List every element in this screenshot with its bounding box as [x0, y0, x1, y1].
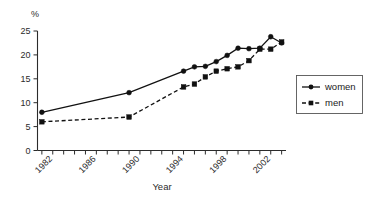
chart-container: % 0510152025 198219861990199419982002 Ye…: [0, 0, 366, 201]
y-tick-label-20: 20: [20, 50, 30, 60]
x-tick-label-1982: 1982: [33, 154, 54, 175]
data-point-men-2002: [268, 47, 273, 52]
data-point-women-1997: [214, 59, 219, 64]
chart-legend: womenmen: [297, 76, 363, 114]
data-point-men-2000: [247, 58, 252, 63]
data-point-women-1995: [192, 64, 197, 69]
data-point-women-2002: [268, 34, 273, 39]
y-tick-label-0: 0: [25, 146, 30, 156]
legend-label-women: women: [324, 81, 356, 92]
data-point-women-2001: [257, 46, 262, 51]
legend-marker-men: [309, 101, 314, 106]
data-point-men-1994: [181, 85, 186, 90]
x-tick-label-1998: 1998: [207, 154, 228, 175]
data-point-men-1999: [236, 65, 241, 70]
data-point-women-2003: [279, 41, 284, 46]
data-point-men-1998: [225, 66, 230, 71]
x-axis-ticks: [42, 151, 282, 155]
data-point-women-1981: [39, 110, 44, 115]
x-axis-title: Year: [152, 181, 171, 192]
data-point-women-2000: [247, 46, 252, 51]
y-axis-ticks: [34, 31, 38, 151]
data-point-women-1996: [203, 64, 208, 69]
y-tick-label-25: 25: [20, 26, 30, 36]
series-line-women: [42, 37, 282, 113]
data-point-men-1981: [40, 120, 45, 125]
data-point-men-1996: [203, 75, 208, 80]
line-chart: % 0510152025 198219861990199419982002 Ye…: [0, 0, 366, 201]
x-tick-label-1994: 1994: [164, 154, 185, 175]
x-axis-tick-labels: 198219861990199419982002: [33, 154, 272, 175]
data-point-women-1998: [225, 53, 230, 58]
y-axis-unit-label: %: [31, 9, 39, 19]
data-point-men-1995: [192, 82, 197, 87]
series-markers-men: [40, 40, 284, 124]
legend-marker-women: [309, 85, 314, 90]
legend-label-men: men: [325, 97, 343, 108]
x-tick-label-1990: 1990: [120, 154, 141, 175]
data-point-men-1997: [214, 69, 219, 74]
data-point-men-1989: [127, 115, 132, 120]
y-tick-label-10: 10: [20, 98, 30, 108]
x-tick-label-1986: 1986: [77, 154, 98, 175]
data-point-women-1994: [181, 69, 186, 74]
y-tick-label-5: 5: [25, 122, 30, 132]
y-axis-tick-labels: 0510152025: [20, 26, 30, 156]
y-tick-label-15: 15: [20, 74, 30, 84]
data-point-women-1999: [236, 46, 241, 51]
series-line-men: [42, 42, 282, 122]
series-markers-women: [39, 34, 284, 114]
data-point-women-1989: [127, 90, 132, 95]
x-tick-label-2002: 2002: [251, 154, 272, 175]
